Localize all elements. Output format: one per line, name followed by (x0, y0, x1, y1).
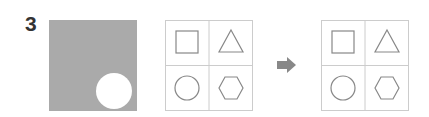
circle-hole (96, 73, 132, 109)
before-grid (165, 20, 253, 111)
circle-shape (331, 76, 355, 100)
square-shape (176, 31, 198, 53)
puzzle-number: 3 (25, 12, 37, 36)
triangle-shape (219, 30, 243, 52)
gray-panel (49, 20, 137, 111)
square-shape (332, 31, 354, 53)
circle-shape (175, 76, 199, 100)
hexagon-shape (219, 77, 243, 99)
after-grid (321, 20, 409, 111)
hexagon-shape (375, 77, 399, 99)
triangle-shape (375, 30, 399, 52)
right-arrow-icon (277, 57, 297, 73)
